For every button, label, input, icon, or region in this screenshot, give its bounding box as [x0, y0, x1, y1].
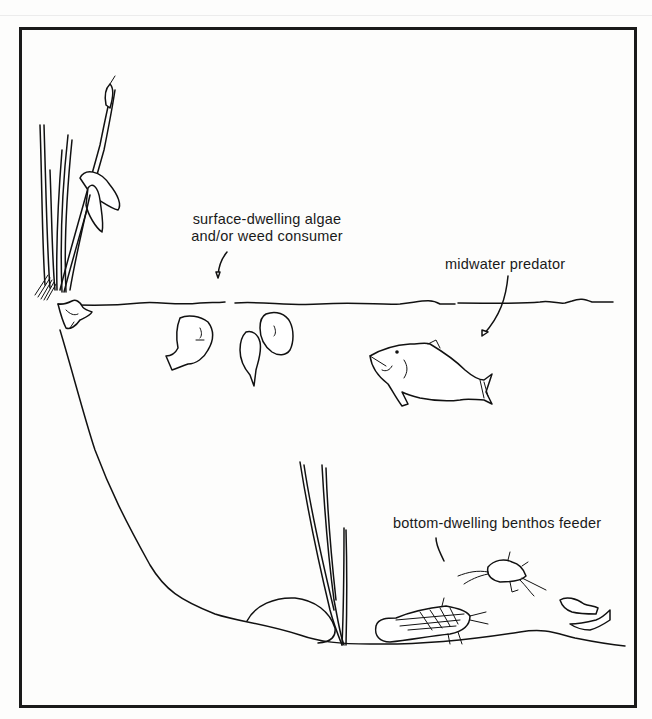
- cattail-plant: [35, 76, 120, 300]
- submerged-plant: [300, 462, 347, 645]
- label-midwater-predator: midwater predator: [445, 256, 565, 273]
- arrow-bottom: [436, 538, 444, 561]
- water-surface-line: [58, 299, 613, 305]
- label-surface-line2: and/or weed consumer: [170, 228, 364, 245]
- arrow-midwater: [484, 276, 508, 334]
- pond-basin-outline: [60, 330, 625, 646]
- catfish-resting: [376, 598, 488, 644]
- arrowhead-surface: [216, 272, 220, 278]
- label-surface-consumer: surface-dwelling algae and/or weed consu…: [170, 211, 364, 245]
- catfish-swimming: [458, 552, 546, 596]
- rock: [247, 598, 335, 643]
- surface-fish-group: [166, 312, 293, 386]
- midwater-predator-fish: [370, 340, 492, 406]
- pond-illustration: [0, 0, 652, 719]
- small-bottom-fish: [560, 598, 610, 630]
- label-surface-line1: surface-dwelling algae: [170, 211, 364, 228]
- label-bottom-feeder: bottom-dwelling benthos feeder: [393, 515, 601, 532]
